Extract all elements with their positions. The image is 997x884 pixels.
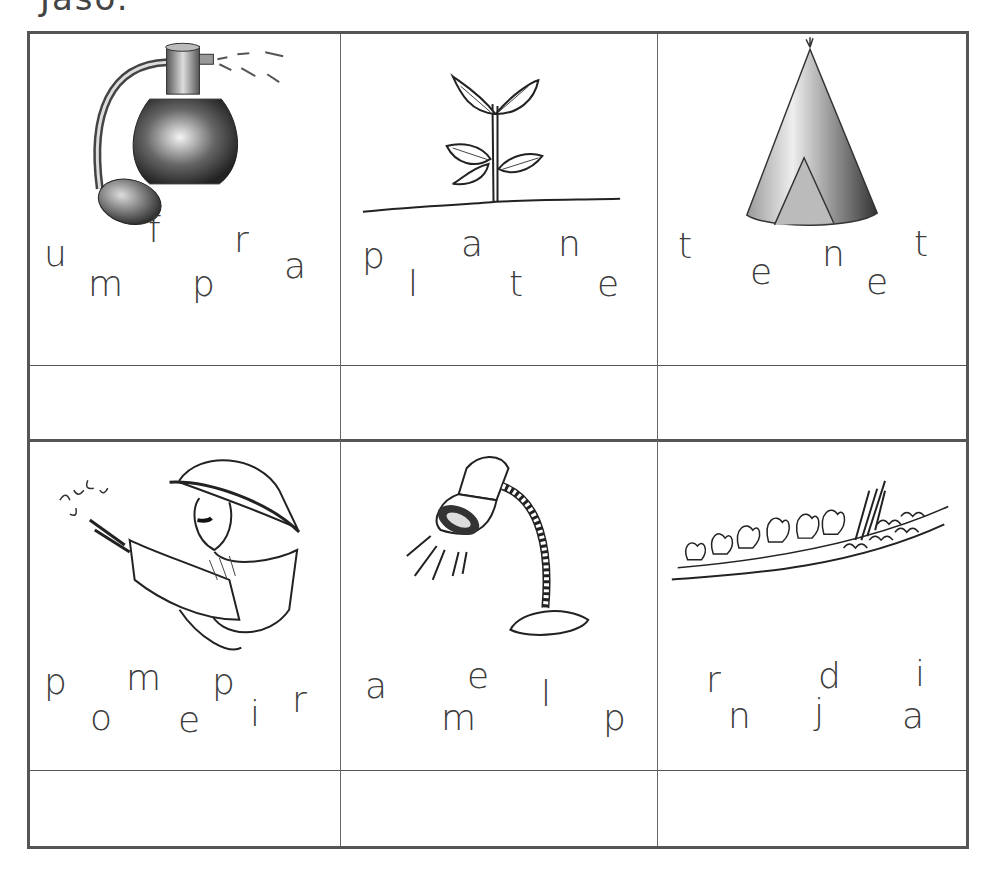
puzzle-cell-plant: panlte [341, 34, 658, 365]
scrambled-letter: m [126, 660, 161, 696]
answer-box-firefighter[interactable] [30, 770, 340, 846]
scrambled-letter: t [678, 228, 692, 264]
answer-row-2 [30, 770, 966, 846]
scrambled-letter: n [558, 226, 581, 262]
scrambled-letter: i [915, 656, 925, 692]
puzzle-cell-tent: tente [658, 34, 966, 365]
scrambled-letter: r [292, 682, 307, 718]
page-heading-cut: Jaso. [40, 0, 130, 18]
scrambled-letter: a [902, 698, 924, 734]
scrambled-letter: o [90, 700, 112, 736]
answer-box-perfume[interactable] [30, 365, 340, 439]
plant-seedling-icon [341, 34, 657, 249]
scrambled-letter: a [284, 248, 306, 284]
scrambled-letter: r [234, 222, 249, 258]
scrambled-letter: d [818, 658, 841, 694]
scrambled-letter: a [461, 226, 483, 262]
scrambled-letter: t [509, 266, 523, 302]
scrambled-letter: e [467, 658, 489, 694]
scrambled-letter: n [822, 236, 845, 272]
scrambled-letter: a [365, 668, 387, 704]
scrambled-letter: e [866, 264, 888, 300]
scrambled-letter: i [250, 696, 260, 732]
scrambled-letter: p [192, 266, 215, 302]
scrambled-letter: m [88, 266, 123, 302]
answer-box-lamp[interactable] [341, 770, 657, 846]
answer-box-garden[interactable] [658, 770, 966, 846]
scrambled-letter: p [44, 664, 67, 700]
scrambled-letter: m [441, 700, 476, 736]
scrambled-letter: l [541, 676, 551, 712]
scrambled-letter: e [750, 254, 772, 290]
scrambled-letter: u [44, 236, 67, 272]
tent-tepee-icon [658, 34, 966, 249]
answer-box-tent[interactable] [658, 365, 966, 439]
desk-lamp-icon [341, 440, 657, 655]
scrambled-letter: p [362, 238, 385, 274]
puzzle-cell-lamp: aelmp [341, 440, 658, 770]
scrambled-letter: j [814, 694, 824, 730]
answer-box-plant[interactable] [341, 365, 657, 439]
scrambled-letter: p [212, 664, 235, 700]
puzzle-row-1: ufrmpa panlte [30, 34, 966, 366]
scrambled-letter: l [408, 266, 418, 302]
answer-row-1 [30, 365, 966, 442]
scrambled-letter: n [728, 698, 751, 734]
scrambled-letter: t [914, 226, 928, 262]
firefighter-hose-icon [30, 440, 340, 655]
scrambled-letter: f [148, 212, 161, 248]
scrambled-letter: e [597, 266, 619, 302]
puzzle-cell-firefighter: pmproei [30, 440, 341, 770]
perfume-bottle-icon [30, 34, 340, 249]
puzzle-row-2: pmproei aelmp [30, 440, 966, 771]
word-puzzle-grid: ufrmpa panlte [27, 31, 969, 849]
puzzle-cell-perfume: ufrmpa [30, 34, 341, 365]
vegetable-garden-icon [658, 440, 966, 655]
scrambled-letter: r [706, 662, 721, 698]
puzzle-cell-garden: rdinja [658, 440, 966, 770]
scrambled-letter: e [178, 702, 200, 738]
scrambled-letter: p [603, 700, 626, 736]
